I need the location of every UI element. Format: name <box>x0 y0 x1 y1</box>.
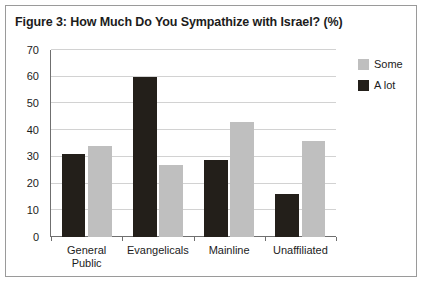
bar-a-lot-1 <box>133 77 157 237</box>
y-tick-label-0: 0 <box>33 237 39 238</box>
figure-title: Figure 3: How Much Do You Sympathize wit… <box>15 15 343 29</box>
x-tick-3 <box>265 237 266 241</box>
x-tick-2 <box>194 237 195 241</box>
x-category-label-3: Unaffiliated <box>273 244 328 257</box>
x-tick-1 <box>122 237 123 241</box>
legend-item-some: Some <box>358 58 403 70</box>
x-category-label-1: Evangelicals <box>127 244 189 257</box>
legend-swatch-icon <box>358 80 369 91</box>
x-tick-end <box>336 237 337 241</box>
x-tick-0 <box>51 237 52 241</box>
y-tick-label-40: 40 <box>27 130 39 131</box>
x-category-label-2: Mainline <box>209 244 250 257</box>
chart-legend: SomeA lot <box>358 58 403 100</box>
bar-some-3 <box>302 141 326 237</box>
bar-some-2 <box>230 122 254 237</box>
figure-frame: Figure 3: How Much Do You Sympathize wit… <box>5 5 417 277</box>
y-tick-label-70: 70 <box>27 50 39 51</box>
y-tick-label-10: 10 <box>27 210 39 211</box>
bars-layer <box>51 50 336 237</box>
legend-label: Some <box>374 58 403 70</box>
legend-label: A lot <box>374 79 395 91</box>
y-tick-label-60: 60 <box>27 76 39 77</box>
bar-chart: 010203040506070 General PublicEvangelica… <box>51 50 336 237</box>
plot-area: 010203040506070 General PublicEvangelica… <box>51 50 336 237</box>
legend-swatch-icon <box>358 59 369 70</box>
y-tick-label-30: 30 <box>27 156 39 157</box>
bar-some-0 <box>88 146 112 237</box>
bar-a-lot-3 <box>275 194 299 237</box>
x-category-label-0: General Public <box>67 244 106 270</box>
bar-a-lot-2 <box>204 160 228 237</box>
y-tick-label-50: 50 <box>27 103 39 104</box>
bar-some-1 <box>159 165 183 237</box>
bar-a-lot-0 <box>62 154 86 237</box>
legend-item-a-lot: A lot <box>358 79 403 91</box>
y-tick-label-20: 20 <box>27 183 39 184</box>
